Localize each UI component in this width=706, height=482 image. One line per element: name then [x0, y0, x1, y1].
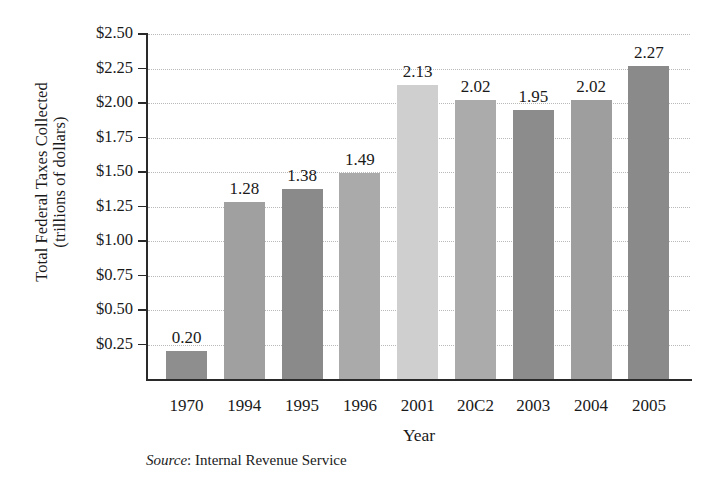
- bar-value-label: 1.38: [287, 166, 317, 186]
- bar-value-label: 2.02: [461, 77, 491, 97]
- bar-group[interactable]: 2.02: [571, 34, 612, 379]
- x-axis-title: Year: [146, 425, 692, 446]
- bar-group[interactable]: 1.49: [339, 34, 380, 379]
- x-axis-tick-labels: 1970199419951996200120C2200320042005: [0, 396, 706, 420]
- bar[interactable]: [513, 110, 554, 379]
- bar-value-label: 1.95: [518, 87, 548, 107]
- x-axis-line: [146, 379, 692, 381]
- source-text: Internal Revenue Service: [195, 452, 347, 468]
- source-separator: :: [187, 452, 195, 468]
- bar[interactable]: [571, 100, 612, 379]
- bar-group[interactable]: 1.95: [513, 34, 554, 379]
- bar-group[interactable]: 2.27: [628, 34, 669, 379]
- bars-layer: 0.201.281.381.492.132.021.952.022.27: [0, 34, 706, 379]
- bar-group[interactable]: 0.20: [166, 34, 207, 379]
- x-tick-label: 2004: [561, 396, 621, 416]
- x-tick-label: 2003: [503, 396, 563, 416]
- bar-group[interactable]: 1.28: [224, 34, 265, 379]
- bar[interactable]: [628, 66, 669, 379]
- x-tick-label: 1996: [330, 396, 390, 416]
- bar[interactable]: [455, 100, 496, 379]
- bar-chart-figure: Total Federal Taxes Collected (trillions…: [0, 0, 706, 482]
- source-label: Source: [146, 452, 187, 468]
- bar-value-label: 0.20: [172, 328, 202, 348]
- x-tick-label: 20C2: [446, 396, 506, 416]
- x-tick-label: 2005: [619, 396, 679, 416]
- bar-value-label: 2.13: [403, 62, 433, 82]
- bar-group[interactable]: 2.02: [455, 34, 496, 379]
- x-tick-label: 1995: [272, 396, 332, 416]
- source-note: Source: Internal Revenue Service: [146, 452, 706, 469]
- bar[interactable]: [397, 85, 438, 379]
- x-tick-label: 1970: [157, 396, 217, 416]
- x-tick-label: 1994: [214, 396, 274, 416]
- bar-group[interactable]: 1.38: [282, 34, 323, 379]
- bar-value-label: 1.28: [229, 179, 259, 199]
- bar[interactable]: [339, 173, 380, 379]
- bar[interactable]: [282, 189, 323, 379]
- x-tick-label: 2001: [388, 396, 448, 416]
- bar-value-label: 2.02: [576, 77, 606, 97]
- bar[interactable]: [166, 351, 207, 379]
- bar[interactable]: [224, 202, 265, 379]
- bar-value-label: 2.27: [634, 43, 664, 63]
- bar-value-label: 1.49: [345, 150, 375, 170]
- bar-group[interactable]: 2.13: [397, 34, 438, 379]
